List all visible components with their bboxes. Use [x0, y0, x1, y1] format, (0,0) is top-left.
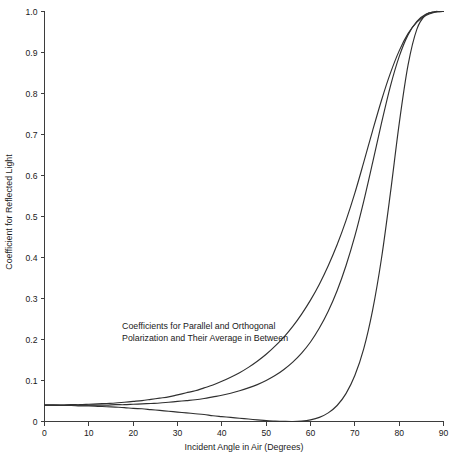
reflectance-curve	[45, 11, 444, 421]
chart-canvas: 00.10.20.30.40.50.60.70.80.91.0 01020304…	[0, 0, 456, 456]
x-tick-label: 0	[42, 428, 47, 438]
y-tick-label: 0.4	[26, 253, 38, 263]
x-tick-label: 30	[173, 428, 183, 438]
x-tick-label: 70	[350, 428, 360, 438]
x-axis: 0102030405060708090	[42, 422, 448, 438]
y-tick-label: 0.5	[26, 212, 38, 222]
curve-description-line1: Coefficients for Parallel and Orthogonal	[122, 321, 275, 331]
x-tick-label: 90	[439, 428, 449, 438]
x-tick-label: 60	[306, 428, 316, 438]
curve-description-line2: Polarization and Their Average in Betwee…	[122, 333, 288, 343]
y-axis-title: Coefficient for Reflected Light	[4, 154, 14, 270]
y-tick-label: 0.1	[26, 376, 38, 386]
chart-annotations: Coefficients for Parallel and Orthogonal…	[122, 321, 288, 343]
x-axis-title: Incident Angle in Air (Degrees)	[185, 442, 304, 452]
y-axis: 00.10.20.30.40.50.60.70.80.91.0	[26, 7, 45, 427]
y-tick-label: 0.8	[26, 89, 38, 99]
fresnel-reflectance-chart: 00.10.20.30.40.50.60.70.80.91.0 01020304…	[0, 0, 456, 456]
x-tick-label: 20	[128, 428, 138, 438]
y-tick-label: 1.0	[26, 7, 38, 17]
reflectance-curve	[45, 12, 444, 406]
x-tick-label: 40	[217, 428, 227, 438]
y-tick-label: 0.6	[26, 171, 38, 181]
y-tick-label: 0.2	[26, 335, 38, 345]
reflectance-curve	[45, 12, 444, 406]
x-tick-label: 80	[394, 428, 404, 438]
data-curves	[45, 11, 444, 421]
x-tick-label: 50	[261, 428, 271, 438]
y-tick-label: 0.7	[26, 130, 38, 140]
x-tick-label: 10	[84, 428, 94, 438]
y-tick-label: 0.9	[26, 48, 38, 58]
y-tick-label: 0.3	[26, 294, 38, 304]
y-tick-label: 0	[33, 417, 38, 427]
